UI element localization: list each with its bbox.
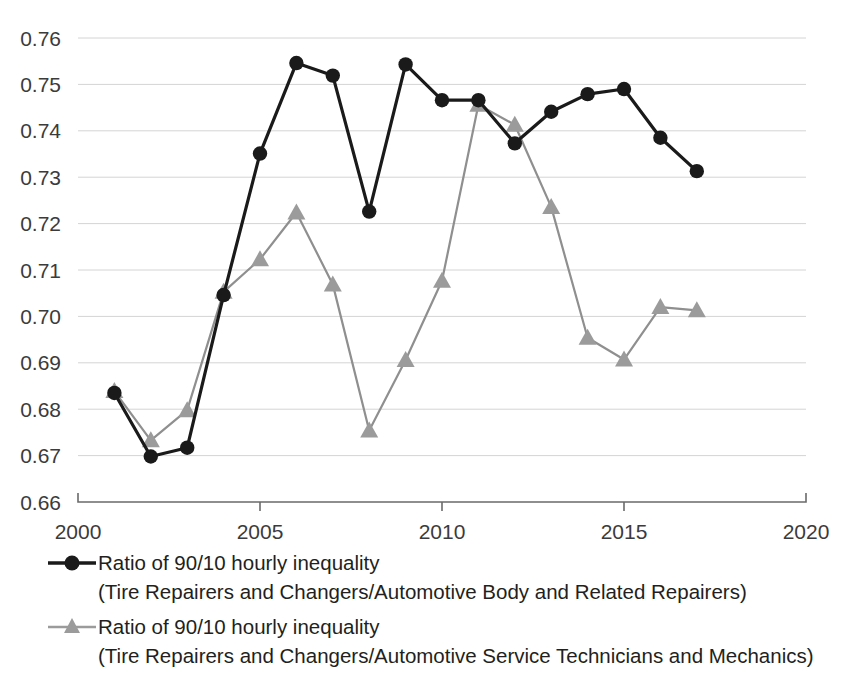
triangle-marker-icon [46, 614, 98, 640]
y-axis-tick-label: 0.67 [20, 444, 61, 467]
legend-item-series-b: Ratio of 90/10 hourly inequality (Tire R… [46, 612, 846, 670]
series-a-data-point [690, 164, 704, 178]
y-axis-tick-label: 0.66 [20, 491, 61, 514]
legend-label-series-b-line1: Ratio of 90/10 hourly inequality [98, 615, 380, 638]
series-a-data-point [580, 87, 594, 101]
series-b-data-point [324, 275, 342, 291]
chart-figure: 0.760.750.740.730.720.710.700.690.680.67… [0, 0, 853, 680]
x-axis-tick-label: 2020 [783, 520, 830, 540]
circle-marker-icon [46, 550, 98, 576]
y-axis-tick-label: 0.68 [20, 398, 61, 421]
series-a-data-point [653, 131, 667, 145]
legend-label-series-b: Ratio of 90/10 hourly inequality (Tire R… [98, 612, 814, 670]
chart-legend: Ratio of 90/10 hourly inequality (Tire R… [46, 548, 846, 676]
series-b-data-point [287, 203, 305, 219]
series-b-data-point [651, 298, 669, 314]
line-chart-svg: 0.760.750.740.730.720.710.700.690.680.67… [0, 10, 853, 540]
y-axis-tick-label: 0.73 [20, 166, 61, 189]
series-a-data-point [362, 204, 376, 218]
series-a-data-point [253, 146, 267, 160]
legend-label-series-a-line1: Ratio of 90/10 hourly inequality [98, 551, 380, 574]
series-a-data-point [508, 136, 522, 150]
series-a-data-point [544, 105, 558, 119]
series-b-data-point [506, 116, 524, 132]
x-axis-tick-label: 2000 [55, 520, 102, 540]
series-a-data-point [289, 56, 303, 70]
y-axis-tick-label: 0.70 [20, 305, 61, 328]
series-a-data-point [398, 57, 412, 71]
x-axis-tick-label: 2010 [419, 520, 466, 540]
series-a-data-point [216, 288, 230, 302]
series-b-data-point [579, 329, 597, 345]
series-a-data-point [144, 449, 158, 463]
legend-label-series-b-line2: (Tire Repairers and Changers/Automotive … [98, 641, 814, 670]
legend-label-series-a: Ratio of 90/10 hourly inequality (Tire R… [98, 548, 747, 606]
x-axis-tick-label: 2005 [237, 520, 284, 540]
series-a-data-point [180, 441, 194, 455]
series-a-data-point [326, 68, 340, 82]
x-axis-line [78, 493, 806, 502]
series-b-data-point [542, 198, 560, 214]
series-a-data-point [435, 93, 449, 107]
series-a-data-point [471, 93, 485, 107]
series-b-data-point [360, 422, 378, 438]
legend-item-series-a: Ratio of 90/10 hourly inequality (Tire R… [46, 548, 846, 606]
series-a-data-point [107, 386, 121, 400]
plot-area: 0.760.750.740.730.720.710.700.690.680.67… [0, 10, 853, 540]
legend-label-series-a-line2: (Tire Repairers and Changers/Automotive … [98, 577, 747, 606]
y-axis-tick-label: 0.74 [20, 119, 61, 142]
y-axis-tick-label: 0.76 [20, 27, 61, 50]
y-axis-tick-label: 0.71 [20, 259, 61, 282]
y-axis-tick-label: 0.69 [20, 351, 61, 374]
y-axis-tick-label: 0.75 [20, 73, 61, 96]
series-b-data-point [615, 351, 633, 367]
series-b-data-point [433, 272, 451, 288]
x-axis-tick-label: 2015 [601, 520, 648, 540]
series-a-line [114, 63, 696, 456]
y-axis-tick-label: 0.72 [20, 212, 61, 235]
series-a-data-point [617, 82, 631, 96]
series-b-data-point [397, 351, 415, 367]
